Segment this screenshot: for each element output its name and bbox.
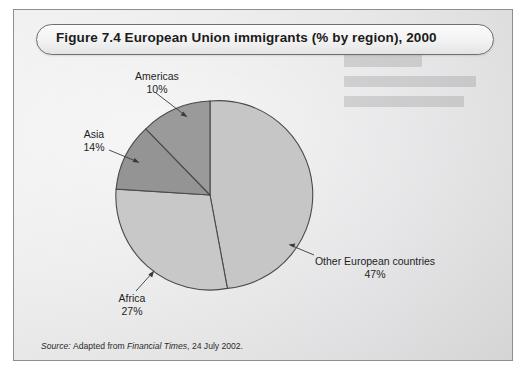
- pie-slice-other-european[interactable]: [210, 101, 313, 289]
- pie-label-africa-value: 27%: [101, 305, 163, 318]
- pie-label-other-european-value: 47%: [300, 268, 450, 281]
- pie-label-americas-value: 10%: [118, 83, 196, 96]
- source-suffix: , 24 July 2002.: [187, 341, 243, 351]
- figure-source-note: Source: Adapted from Financial Times, 24…: [41, 341, 243, 351]
- source-publication: Financial Times: [127, 341, 187, 351]
- figure-screenshot: Figure 7.4 European Union immigrants (% …: [0, 0, 528, 372]
- pie-label-africa-name: Africa: [119, 292, 146, 304]
- source-text: Adapted from: [73, 341, 125, 351]
- pie-label-asia: Asia 14%: [66, 128, 122, 154]
- pie-label-other-european: Other European countries 47%: [300, 255, 450, 281]
- pie-slice-africa[interactable]: [116, 189, 228, 290]
- pie-label-asia-name: Asia: [84, 128, 104, 140]
- source-prefix: Source:: [41, 341, 71, 351]
- pie-chart: Americas 10% Asia 14% Africa 27% Other E…: [14, 10, 513, 361]
- pie-chart-svg: [14, 10, 513, 361]
- pie-label-other-european-name: Other European countries: [315, 255, 435, 267]
- pie-label-americas-name: Americas: [135, 70, 179, 82]
- pie-label-africa: Africa 27%: [101, 292, 163, 318]
- pie-label-americas: Americas 10%: [118, 70, 196, 96]
- pie-label-asia-value: 14%: [66, 141, 122, 154]
- figure-panel: Figure 7.4 European Union immigrants (% …: [13, 9, 513, 361]
